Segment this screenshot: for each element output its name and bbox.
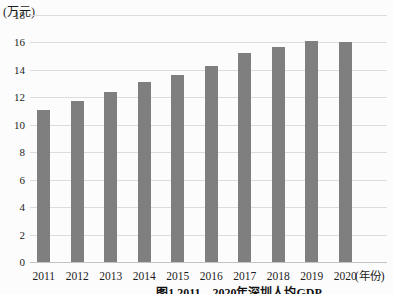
gridline	[30, 15, 387, 16]
y-tick-label: 10	[0, 118, 25, 132]
bar-2013	[104, 92, 117, 262]
y-tick-label: 12	[0, 90, 25, 104]
bar-2018	[272, 47, 285, 262]
y-tick-label: 14	[0, 63, 25, 77]
bar-2017	[238, 53, 251, 262]
x-axis-unit-label: (年份)	[355, 270, 393, 283]
bar-2012	[71, 101, 84, 262]
y-tick-label: 6	[0, 173, 25, 187]
y-tick-label: 2	[0, 228, 25, 242]
plot-area	[30, 15, 387, 263]
y-tick-label: 8	[0, 145, 25, 159]
bar-2019	[305, 41, 318, 262]
chart-caption: 图1 2011—2020年深圳人均GDP	[0, 286, 393, 294]
gridline	[30, 42, 387, 43]
bar-chart: (万元) 024681012141618 2011201220132014201…	[0, 0, 393, 294]
bar-2015	[171, 75, 184, 262]
y-tick-label: 0	[0, 255, 25, 269]
y-tick-label: 4	[0, 200, 25, 214]
y-tick-label: 18	[0, 8, 25, 22]
bar-2020	[339, 42, 352, 262]
y-tick-label: 16	[0, 35, 25, 49]
bar-2014	[138, 82, 151, 262]
bar-2016	[205, 66, 218, 262]
bar-2011	[37, 110, 50, 262]
